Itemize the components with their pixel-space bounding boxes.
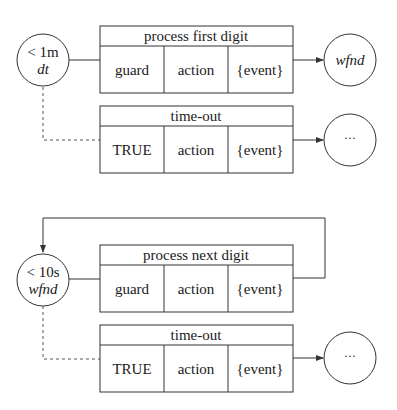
timeout-dashed-link <box>43 306 100 359</box>
action-cell: action <box>178 142 215 158</box>
state-group-2: < 10s wfnd process next digit guard acti… <box>17 218 376 392</box>
event-cell: {event} <box>237 62 284 78</box>
guard-cell: guard <box>115 62 150 78</box>
target-state-label: ··· <box>344 131 356 145</box>
state-label-line2: dt <box>37 61 50 77</box>
event-cell: {event} <box>237 142 284 158</box>
target-state-label: wfnd <box>335 52 365 68</box>
guard-cell: TRUE <box>112 361 151 377</box>
state-group-1: < 1m dt process first digit guard action… <box>17 26 376 173</box>
transition-title: time-out <box>171 108 223 124</box>
state-label-line1: < 10s <box>26 264 59 280</box>
target-state-label: ··· <box>344 349 356 363</box>
guard-cell: TRUE <box>112 142 151 158</box>
transition-box-process-next-digit: process next digit guard action {event} <box>100 245 293 312</box>
state-circle-dt <box>17 34 69 86</box>
transition-box-process-first-digit: process first digit guard action {event} <box>100 26 293 93</box>
action-cell: action <box>178 281 215 297</box>
state-label-line1: < 1m <box>27 44 59 60</box>
event-cell: {event} <box>237 281 284 297</box>
transition-box-time-out: time-out TRUE action {event} <box>100 106 293 173</box>
timeout-dashed-link <box>43 87 100 140</box>
transition-title: process next digit <box>143 247 250 263</box>
state-transition-diagram: < 1m dt process first digit guard action… <box>0 0 397 410</box>
action-cell: action <box>178 62 215 78</box>
transition-title: time-out <box>171 327 223 343</box>
guard-cell: guard <box>115 281 150 297</box>
state-label-line2: wfnd <box>28 281 58 297</box>
transition-title: process first digit <box>144 28 249 44</box>
transition-box-time-out: time-out TRUE action {event} <box>100 325 293 392</box>
event-cell: {event} <box>237 361 284 377</box>
state-circle-wfnd-timer <box>17 254 69 306</box>
action-cell: action <box>178 361 215 377</box>
